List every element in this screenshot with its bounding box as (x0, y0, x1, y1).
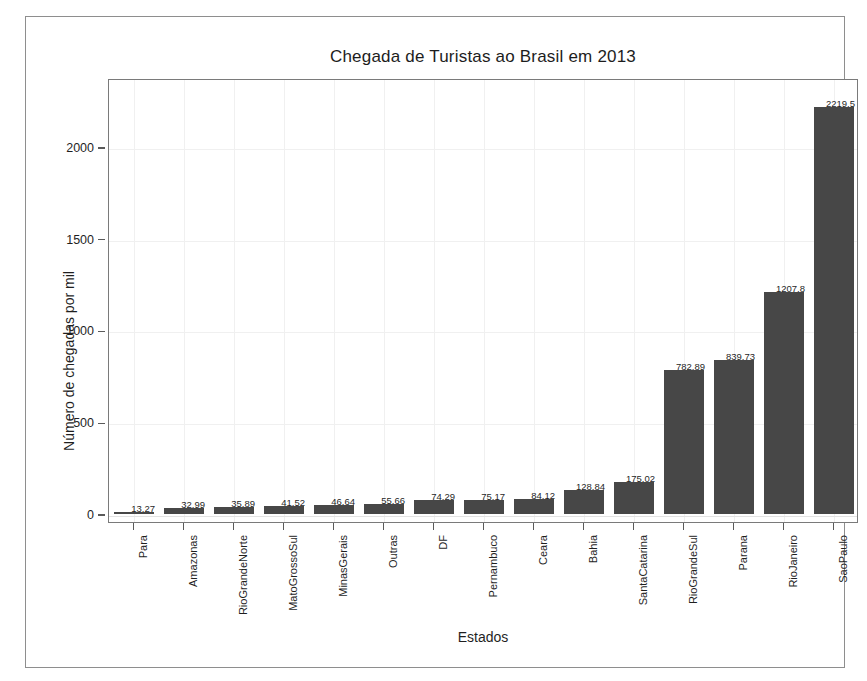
gridline-vertical (384, 80, 385, 522)
y-axis-title: Número de chegadas por mil (61, 161, 77, 561)
bar-santacatarina (614, 482, 654, 514)
y-tick-labels: 0500100015002000 (26, 79, 94, 523)
y-tick-label: 0 (87, 508, 94, 522)
x-axis: ParaAmazonasRioGrandeNorteMatoGrossoSulM… (108, 523, 858, 623)
x-tick-mark (833, 523, 834, 530)
gridline-vertical (634, 80, 635, 522)
x-tick-mark (483, 523, 484, 530)
x-tick-label-matogrossosul: MatoGrossoSul (287, 535, 299, 611)
x-tick-mark (733, 523, 734, 530)
y-tick-label: 2000 (66, 141, 94, 155)
x-tick-mark (383, 523, 384, 530)
y-tick-mark (98, 331, 105, 332)
bar-df (414, 500, 454, 514)
gridline-vertical (434, 80, 435, 522)
gridline-vertical (334, 80, 335, 522)
x-tick-mark (183, 523, 184, 530)
bar-value-label: 35.89 (231, 498, 255, 509)
x-axis-title: Estados (108, 629, 858, 645)
gridline-vertical (284, 80, 285, 522)
bar-parana (714, 360, 754, 514)
x-tick-label-saopaulo: SaoPaulo (837, 535, 849, 583)
bar-bahia (564, 490, 604, 514)
bar-riojaneiro (764, 292, 804, 514)
plot-area: 13.2732.9935.8941.5246.6455.6674.2975.17… (108, 79, 858, 523)
x-tick-label-minasgerais: MinasGerais (337, 535, 349, 597)
bar-value-label: 1207.8 (776, 283, 805, 294)
bar-value-label: 32.99 (181, 499, 205, 510)
bar-value-label: 839.73 (726, 351, 755, 362)
x-tick-label-riograndenorte: RioGrandeNorte (237, 535, 249, 615)
bar-value-label: 13.27 (131, 503, 155, 514)
x-tick-label-bahia: Bahia (587, 535, 599, 563)
chart-title: Chegada de Turistas ao Brasil em 2013 (108, 47, 858, 67)
plot-inner: 13.2732.9935.8941.5246.6455.6674.2975.17… (109, 80, 857, 522)
x-tick-mark (233, 523, 234, 530)
gridline-vertical (534, 80, 535, 522)
gridline-horizontal (109, 332, 857, 333)
bar-pernambuco (464, 500, 504, 514)
y-tick-mark (98, 514, 105, 515)
y-tick-mark (98, 423, 105, 424)
x-tick-mark (283, 523, 284, 530)
bar-value-label: 175.02 (626, 473, 655, 484)
gridline-horizontal (109, 149, 857, 150)
gridline-vertical (584, 80, 585, 522)
bar-ceara (514, 499, 554, 514)
y-tick-mark (98, 147, 105, 148)
gridline-vertical (484, 80, 485, 522)
x-tick-mark (533, 523, 534, 530)
bar-value-label: 55.66 (381, 495, 405, 506)
bar-value-label: 74.29 (431, 491, 455, 502)
bar-value-label: 782.89 (676, 361, 705, 372)
gridline-vertical (184, 80, 185, 522)
y-tick-mark (98, 239, 105, 240)
page-frame: Chegada de Turistas ao Brasil em 2013 05… (25, 16, 845, 668)
x-tick-mark (633, 523, 634, 530)
gridline-vertical (234, 80, 235, 522)
x-tick-mark (583, 523, 584, 530)
x-tick-label-outras: Outras (387, 535, 399, 568)
x-tick-label-pernambuco: Pernambuco (487, 535, 499, 597)
x-tick-label-amazonas: Amazonas (187, 535, 199, 587)
x-tick-mark (333, 523, 334, 530)
bar-riograndesul (664, 370, 704, 514)
x-tick-label-para: Para (137, 535, 149, 558)
x-tick-mark (783, 523, 784, 530)
x-tick-label-santacatarina: SantaCatarina (637, 535, 649, 605)
bar-saopaulo (814, 107, 854, 514)
x-tick-label-riojaneiro: RioJaneiro (787, 535, 799, 588)
bar-value-label: 2219.5 (826, 98, 855, 109)
x-tick-label-df: DF (437, 535, 449, 550)
gridline-vertical (134, 80, 135, 522)
x-tick-label-riograndesul: RioGrandeSul (687, 535, 699, 604)
y-axis: 0500100015002000 Número de chegadas por … (26, 79, 108, 523)
x-tick-mark (433, 523, 434, 530)
x-tick-label-ceara: Ceara (537, 535, 549, 565)
gridline-horizontal (109, 241, 857, 242)
zero-baseline (109, 516, 857, 517)
x-tick-label-parana: Parana (737, 535, 749, 570)
bar-value-label: 128.84 (576, 481, 605, 492)
x-tick-mark (683, 523, 684, 530)
bar-value-label: 46.64 (331, 496, 355, 507)
bar-value-label: 41.52 (281, 497, 305, 508)
bar-value-label: 84.12 (531, 490, 555, 501)
x-tick-mark (133, 523, 134, 530)
bar-value-label: 75.17 (481, 491, 505, 502)
